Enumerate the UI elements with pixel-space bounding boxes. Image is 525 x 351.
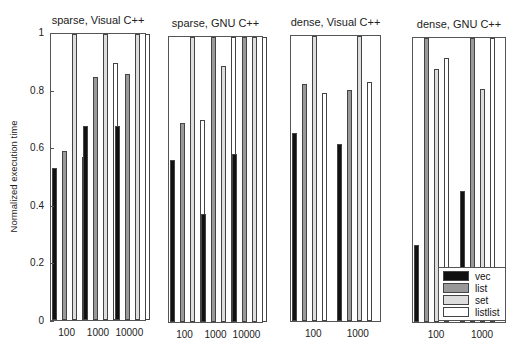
bar-vec — [232, 154, 237, 322]
bar-set — [103, 34, 108, 320]
legend-item-listlist: listlist — [439, 306, 505, 318]
x-tick-label: 1000 — [459, 329, 505, 340]
bar-vec — [337, 144, 342, 321]
y-tick-mark — [50, 321, 54, 322]
bar-list — [180, 123, 185, 323]
bar-list — [424, 38, 429, 322]
legend-item-set: set — [439, 294, 505, 306]
bar-list — [211, 37, 216, 322]
panel-title: dense, Visual C++ — [290, 16, 381, 28]
bar-set — [312, 36, 317, 321]
chart-panel — [290, 35, 381, 322]
y-tick-label: 1 — [24, 27, 44, 38]
y-tick-mark — [50, 91, 54, 92]
bar-list — [125, 74, 130, 320]
bar-list — [242, 37, 247, 322]
panel-title: sparse, GNU C++ — [168, 17, 263, 29]
y-tick-mark — [50, 263, 54, 264]
bar-vec — [170, 160, 175, 322]
bar-set — [252, 37, 257, 322]
y-tick-label: 0 — [24, 315, 44, 326]
legend-swatch — [443, 283, 469, 293]
x-tick-label: 100 — [51, 327, 82, 338]
x-tick-label: 10000 — [114, 327, 145, 338]
bar-set — [72, 34, 77, 320]
x-tick-label: 100 — [413, 329, 459, 340]
bar-listlist — [145, 34, 150, 320]
bar-listlist — [262, 37, 267, 322]
legend-label: vec — [475, 271, 491, 282]
x-tick-label: 100 — [169, 329, 200, 340]
bar-vec — [292, 133, 297, 321]
x-tick-label: 1000 — [336, 328, 381, 339]
bar-set — [221, 66, 226, 323]
legend-label: list — [475, 283, 487, 294]
legend-label: set — [475, 295, 488, 306]
y-axis-label: Normalized execution time — [8, 112, 19, 242]
legend-swatch — [443, 295, 469, 305]
legend-label: listlist — [475, 307, 499, 318]
legend-swatch — [443, 307, 469, 317]
bar-set — [135, 34, 140, 320]
bar-set — [357, 36, 362, 321]
legend: veclistsetlistlist — [438, 267, 506, 321]
bar-list — [302, 84, 307, 321]
bar-list — [347, 90, 352, 321]
bar-vec — [83, 126, 88, 320]
chart-panel — [50, 33, 146, 321]
bar-list — [62, 151, 67, 320]
legend-swatch — [443, 271, 469, 281]
bar-vec — [115, 126, 120, 320]
panel-title: dense, GNU C++ — [412, 18, 506, 30]
x-tick-label: 1000 — [200, 329, 231, 340]
bar-listlist — [367, 82, 372, 321]
panel-title: sparse, Visual C++ — [50, 14, 146, 26]
legend-item-list: list — [439, 282, 505, 294]
y-tick-label: 0.8 — [24, 85, 44, 96]
bar-vec — [52, 168, 57, 320]
chart-panel — [168, 36, 263, 323]
y-tick-mark — [50, 148, 54, 149]
y-tick-label: 0.6 — [24, 142, 44, 153]
x-tick-label: 10000 — [231, 329, 262, 340]
bar-vec — [201, 214, 206, 322]
bar-set — [190, 37, 195, 322]
bar-vec — [414, 245, 419, 322]
y-tick-mark — [50, 33, 54, 34]
y-tick-mark — [50, 206, 54, 207]
legend-item-vec: vec — [439, 270, 505, 282]
y-tick-label: 0.4 — [24, 200, 44, 211]
bar-listlist — [322, 93, 327, 321]
bar-list — [93, 77, 98, 320]
y-tick-label: 0.2 — [24, 257, 44, 268]
x-tick-label: 1000 — [82, 327, 113, 338]
x-tick-label: 100 — [291, 328, 336, 339]
